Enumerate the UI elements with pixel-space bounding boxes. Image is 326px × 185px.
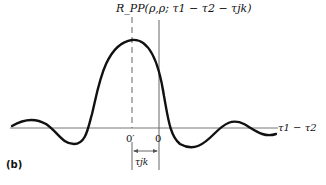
panel-label: (b) [6, 160, 22, 170]
offset-label: τjk [135, 158, 148, 167]
correlation-plot [0, 0, 326, 185]
arrowhead-right-icon [153, 149, 158, 153]
arrowhead-left-icon [133, 149, 138, 153]
plot-title: R_PP(ρ,ρ; τ1 − τ2 − τjk) [116, 3, 252, 14]
correlation-curve [12, 40, 276, 147]
tick-origin: 0 [155, 134, 161, 144]
x-axis-label: τ1 − τ2 [278, 123, 317, 133]
tick-shifted-origin: 0′ [126, 134, 135, 144]
